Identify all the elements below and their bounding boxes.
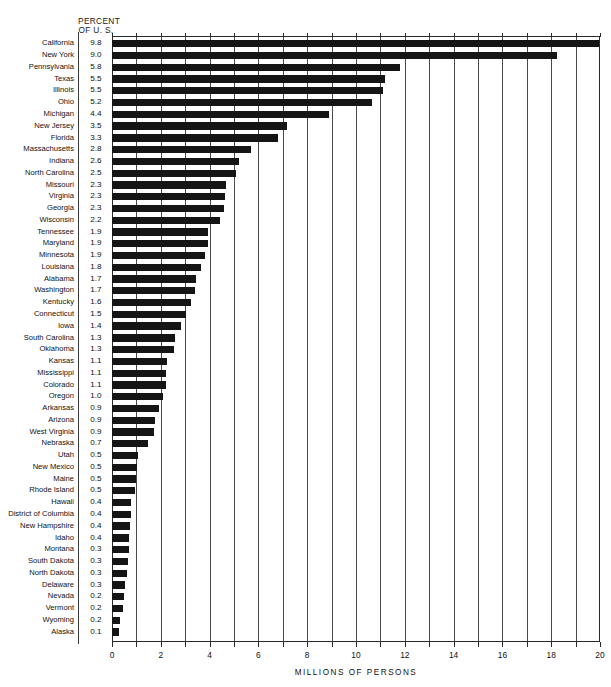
x-axis-tick-label: 10	[341, 650, 371, 660]
bar	[112, 499, 131, 506]
chart-row: Arizona0.9	[0, 415, 611, 427]
chart-row: Indiana2.6	[0, 156, 611, 168]
percent-of-us-value: 5.5	[82, 85, 110, 95]
bar	[112, 264, 201, 271]
x-axis-tick-label: 4	[195, 650, 225, 660]
percent-of-us-value: 0.4	[82, 497, 110, 507]
x-axis-tick-label: 6	[243, 650, 273, 660]
chart-row: Washington1.7	[0, 285, 611, 297]
percent-of-us-value: 3.5	[82, 121, 110, 131]
percent-of-us-value: 2.5	[82, 168, 110, 178]
bar	[112, 240, 208, 247]
percent-of-us-value: 0.2	[82, 591, 110, 601]
x-axis-tick-label: 12	[390, 650, 420, 660]
percent-of-us-value: 1.1	[82, 380, 110, 390]
axis-tick-top	[551, 33, 552, 37]
percent-of-us-value: 0.4	[82, 521, 110, 531]
x-axis-title: MILLIONS OF PERSONS	[112, 668, 600, 677]
bar	[112, 299, 191, 306]
axis-tick-top	[185, 33, 186, 37]
percent-of-us-value: 1.0	[82, 391, 110, 401]
bar	[112, 617, 120, 624]
axis-tick-top	[356, 33, 357, 37]
bar	[112, 405, 159, 412]
state-label: Connecticut	[0, 309, 74, 319]
percent-of-us-value: 1.9	[82, 238, 110, 248]
state-label: New Hampshire	[0, 521, 74, 531]
state-label: Louisiana	[0, 262, 74, 272]
axis-tick-bottom	[112, 642, 113, 647]
state-label: Michigan	[0, 109, 74, 119]
state-label: North Carolina	[0, 168, 74, 178]
bar	[112, 534, 129, 541]
percent-of-us-value: 0.9	[82, 427, 110, 437]
chart-row: Montana0.3	[0, 544, 611, 556]
state-label: North Dakota	[0, 568, 74, 578]
state-label: Florida	[0, 133, 74, 143]
percent-of-us-value: 5.5	[82, 74, 110, 84]
percent-of-us-value: 1.1	[82, 356, 110, 366]
bar	[112, 287, 195, 294]
bar	[112, 334, 175, 341]
axis-tick-bottom	[356, 642, 357, 647]
axis-tick-bottom	[283, 642, 284, 647]
chart-row: Utah0.5	[0, 450, 611, 462]
chart-row: New Mexico0.5	[0, 462, 611, 474]
chart-row: Pennsylvania5.8	[0, 62, 611, 74]
chart-row: Minnesota1.9	[0, 250, 611, 262]
axis-tick-bottom	[307, 642, 308, 647]
chart-row: Wisconsin2.2	[0, 214, 611, 226]
state-label: Texas	[0, 74, 74, 84]
bar	[112, 522, 130, 529]
percent-of-us-value: 5.8	[82, 62, 110, 72]
percent-of-us-value: 0.2	[82, 603, 110, 613]
state-label: Montana	[0, 544, 74, 554]
bar	[112, 581, 125, 588]
axis-tick-bottom	[429, 642, 430, 647]
chart-rows: California9.8New York9.0Pennsylvania5.8T…	[0, 38, 611, 638]
bar	[112, 593, 124, 600]
chart-row: North Carolina2.5	[0, 167, 611, 179]
chart-row: Mississippi1.1	[0, 367, 611, 379]
axis-tick-bottom	[210, 642, 211, 647]
percent-of-us-value: 0.1	[82, 627, 110, 637]
axis-tick-bottom	[380, 642, 381, 647]
bar	[112, 275, 196, 282]
chart-row: West Virginia0.9	[0, 426, 611, 438]
chart-row: Connecticut1.5	[0, 309, 611, 321]
axis-tick-top	[380, 33, 381, 37]
axis-tick-bottom	[527, 642, 528, 647]
bar	[112, 628, 119, 635]
state-label: South Carolina	[0, 333, 74, 343]
chart-row: Illinois5.5	[0, 85, 611, 97]
state-label: Iowa	[0, 321, 74, 331]
chart-row: Iowa1.4	[0, 320, 611, 332]
percent-of-us-value: 1.9	[82, 250, 110, 260]
state-label: Missouri	[0, 180, 74, 190]
chart-row: New York9.0	[0, 50, 611, 62]
bar	[112, 428, 154, 435]
percent-of-us-value: 1.3	[82, 333, 110, 343]
state-label: Alabama	[0, 274, 74, 284]
bar	[112, 311, 186, 318]
bar	[112, 570, 127, 577]
chart-row: New Hampshire0.4	[0, 520, 611, 532]
bar	[112, 358, 167, 365]
bar	[112, 217, 220, 224]
state-label: Indiana	[0, 156, 74, 166]
percent-of-us-value: 0.9	[82, 403, 110, 413]
bar	[112, 322, 181, 329]
chart-row: Louisiana1.8	[0, 262, 611, 274]
chart-row: Nevada0.2	[0, 591, 611, 603]
state-label: New Mexico	[0, 462, 74, 472]
percent-of-us-value: 3.3	[82, 133, 110, 143]
bar	[112, 511, 131, 518]
state-label: Idaho	[0, 533, 74, 543]
axis-tick-bottom	[600, 642, 601, 647]
axis-tick-bottom	[332, 642, 333, 647]
percent-of-us-value: 1.1	[82, 368, 110, 378]
chart-row: Florida3.3	[0, 132, 611, 144]
bar	[112, 370, 166, 377]
chart-row: Maine0.5	[0, 473, 611, 485]
axis-tick-bottom	[454, 642, 455, 647]
